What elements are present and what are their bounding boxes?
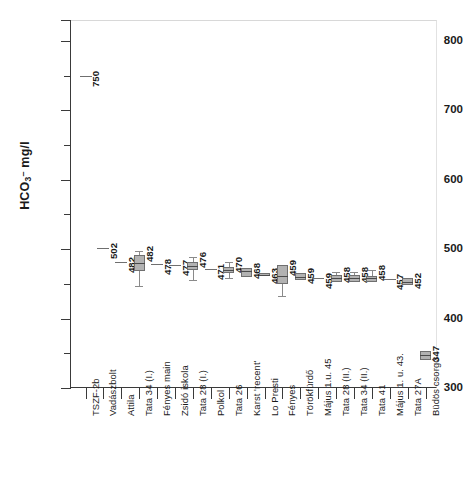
whisker-cap-upper (189, 257, 197, 258)
x-axis-tick-label: Lo Presti (269, 402, 280, 416)
x-axis-tick-label: Tata 28 (I.) (197, 402, 208, 416)
data-value-label: 347 (430, 346, 441, 376)
x-axis-tick (175, 388, 176, 399)
x-axis-tick-label: Fényes (286, 402, 297, 416)
whisker-lower (282, 284, 283, 296)
data-value-label: 482 (144, 246, 155, 276)
x-axis-tick-label: Tata 26 (233, 402, 244, 416)
x-axis-tick (265, 388, 266, 399)
boxplot-chart: HCO3– mg/l 300400500600700800 TSZF-2bVad… (0, 0, 463, 481)
y-axis-major-tick (61, 110, 71, 111)
x-axis-tick-label: Törökfürdő (304, 402, 315, 416)
y-axis-minor-tick (64, 353, 71, 354)
x-axis-tick (390, 388, 391, 399)
plot-area (70, 20, 437, 388)
whisker-lower (193, 270, 194, 280)
y-axis-major-tick (61, 41, 71, 42)
x-axis-tick (372, 388, 373, 399)
data-value-label: 750 (90, 71, 101, 101)
data-value-label: 468 (251, 263, 262, 293)
x-axis-tick (426, 388, 427, 399)
y-axis-title: HCO3– mg/l (18, 121, 33, 231)
y-axis-major-tick (61, 249, 71, 250)
y-axis-tick-label: 400 (407, 312, 463, 324)
whisker-lower (139, 271, 140, 286)
x-axis-tick-label: Tata 28 (II.) (340, 402, 351, 416)
x-axis-tick (193, 388, 194, 399)
x-axis-tick (157, 388, 158, 399)
x-axis-tick-label: Május 1.u. 45 (322, 402, 333, 416)
x-axis-tick (336, 388, 337, 399)
x-axis-tick-label: Tata 41 (376, 402, 387, 416)
x-axis-tick (139, 388, 140, 399)
data-value-label: 478 (162, 259, 173, 289)
y-axis-minor-tick (64, 284, 71, 285)
whisker-cap-lower (189, 280, 197, 281)
median-line (349, 278, 360, 279)
whisker-cap-upper (350, 272, 358, 273)
x-axis-tick (103, 388, 104, 399)
whisker-cap-lower (135, 286, 143, 287)
x-axis-tick-label: Attila (125, 402, 136, 416)
whisker-cap-upper (368, 270, 376, 271)
x-axis-tick-label: Büdös csorgó (430, 402, 441, 416)
x-axis-tick-label: Fényes main (161, 402, 172, 416)
x-axis-tick (211, 388, 212, 399)
x-axis-tick (282, 388, 283, 399)
x-axis-tick (354, 388, 355, 399)
data-value-label: 502 (108, 243, 119, 273)
data-value-label: 476 (197, 252, 208, 282)
y-axis-tick-label: 700 (407, 103, 463, 115)
x-axis-tick-label: Tata 34 (II.) (358, 402, 369, 416)
x-axis-tick (318, 388, 319, 399)
x-axis-tick (229, 388, 230, 399)
x-axis-tick-label: Zsidó iskola (179, 402, 190, 416)
data-value-label: 459 (305, 268, 316, 298)
x-axis-tick (121, 388, 122, 399)
y-axis-minor-tick (64, 214, 71, 215)
whisker-cap-lower (225, 278, 233, 279)
whisker-cap-upper (135, 251, 143, 252)
x-axis-tick-label: TSZF-2b (90, 402, 101, 416)
y-axis-major-tick (61, 180, 71, 181)
y-axis-tick-label: 800 (407, 34, 463, 46)
y-axis-minor-tick (64, 145, 71, 146)
x-axis-tick-label: Május 1. u. 43. (394, 402, 405, 416)
x-axis-tick (247, 388, 248, 399)
y-axis-major-tick (61, 319, 71, 320)
y-axis-minor-tick (64, 76, 71, 77)
x-axis-tick (300, 388, 301, 399)
whisker-cap-upper (225, 262, 233, 263)
y-axis-tick-label: 500 (407, 242, 463, 254)
x-axis-tick-label: Vadászbolt (107, 402, 118, 416)
whisker-cap-lower (278, 296, 286, 297)
x-axis-tick (86, 388, 87, 399)
median-line (331, 278, 342, 279)
x-axis-tick-label: Tata 27A (412, 402, 423, 416)
x-axis-tick (408, 388, 409, 399)
x-axis-tick-label: Tata 34 (I.) (143, 402, 154, 416)
data-value-label: 452 (412, 273, 423, 303)
y-axis-major-tick (61, 388, 71, 389)
data-value-label: 458 (359, 267, 370, 297)
whisker-cap-upper (332, 272, 340, 273)
x-axis-tick-label: Karst 'recent' (251, 402, 262, 416)
y-axis-tick-label: 600 (407, 173, 463, 185)
x-axis-tick-label: Polkol (215, 402, 226, 416)
y-axis-top-cap (61, 20, 71, 21)
